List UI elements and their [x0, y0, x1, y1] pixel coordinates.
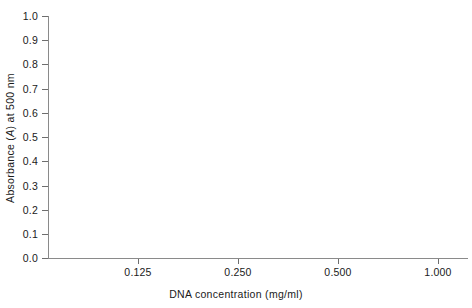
- x-tick-mark: [338, 259, 339, 264]
- y-tick-mark: [42, 40, 48, 41]
- x-tick-mark: [438, 259, 439, 264]
- y-axis-line: [48, 16, 49, 259]
- x-axis-title: DNA concentration (mg/ml): [0, 288, 472, 300]
- y-tick-mark: [42, 137, 48, 138]
- y-tick-mark: [42, 113, 48, 114]
- y-tick-mark: [42, 234, 48, 235]
- x-axis-line: [48, 258, 468, 259]
- x-tick-label: 0.250: [208, 266, 268, 278]
- x-tick-label: 0.500: [308, 266, 368, 278]
- y-tick-mark: [42, 258, 48, 259]
- x-tick-label: 1.000: [408, 266, 468, 278]
- x-tick-mark: [138, 259, 139, 264]
- chart-figure: 1.0 0.9 0.8 0.7 0.6 0.5 0.4 0.3 0.2 0.1 …: [0, 0, 472, 308]
- y-axis-title: Absorbance (A) at 500 nm: [4, 73, 16, 203]
- y-axis-title-suffix: ) at 500 nm: [4, 73, 16, 129]
- y-tick-mark: [42, 89, 48, 90]
- x-tick-label: 0.125: [108, 266, 168, 278]
- y-tick-mark: [42, 161, 48, 162]
- y-axis-title-prefix: Absorbance (: [4, 137, 16, 203]
- y-axis-title-container: Absorbance (A) at 500 nm: [2, 0, 18, 276]
- y-axis-title-symbol: A: [4, 130, 16, 137]
- y-tick-mark: [42, 210, 48, 211]
- x-tick-mark: [238, 259, 239, 264]
- y-tick-mark: [42, 186, 48, 187]
- plot-area: [48, 16, 468, 258]
- y-tick-mark: [42, 16, 48, 17]
- y-tick-mark: [42, 64, 48, 65]
